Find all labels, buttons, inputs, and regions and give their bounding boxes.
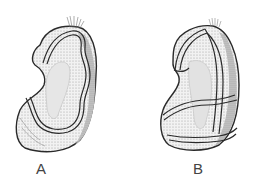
panel-a-illustration (0, 0, 127, 189)
organism-b-drawing (127, 0, 254, 189)
panel-label-a: A (36, 161, 46, 176)
panel-b-illustration (127, 0, 254, 189)
cilia-tuft-icon (209, 18, 221, 27)
panel-label-b: B (193, 161, 203, 176)
organism-a-drawing (0, 0, 127, 189)
